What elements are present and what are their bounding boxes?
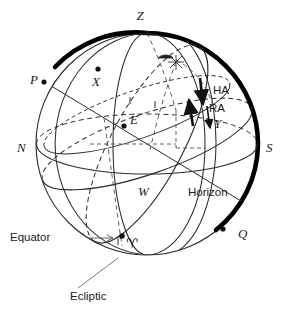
label-hour-angle: HA (213, 84, 229, 96)
label-pole: P (29, 72, 38, 87)
label-horizon: Horizon (188, 186, 228, 198)
label-equator: Equator (10, 231, 50, 243)
zenith-marker-dot (145, 31, 149, 35)
centre-marker-dot (121, 123, 126, 128)
label-star: X (91, 74, 101, 89)
star-marker-dot (95, 66, 100, 71)
label-north: N (16, 140, 27, 155)
label-centre: E (129, 112, 138, 127)
label-aries-symbol: ♈ (126, 236, 138, 251)
pole-marker-dot (41, 79, 46, 84)
celestial-sphere-svg: Z P X E N S W Q HA RA Y Horizon Equator … (0, 0, 295, 320)
label-right-ascension: RA (209, 102, 225, 114)
label-west: W (138, 184, 150, 199)
celestial-sphere-figure: Z P X E N S W Q HA RA Y Horizon Equator … (0, 0, 295, 320)
ecliptic-leader-line (78, 258, 118, 288)
aries-marker-dot (119, 233, 125, 239)
label-zenith: Z (136, 8, 144, 23)
label-ecliptic: Ecliptic (70, 290, 107, 302)
quadrant-marker-dot (220, 226, 225, 231)
label-quadrant: Q (238, 226, 248, 241)
label-south: S (266, 140, 273, 155)
